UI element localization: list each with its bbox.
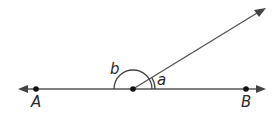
ray (133, 10, 262, 89)
arrow-left-icon (18, 85, 28, 93)
point-a-dot (33, 86, 39, 92)
label-b-point: B (241, 93, 251, 111)
point-o-dot (130, 86, 136, 92)
angle-b-arc (114, 70, 152, 89)
label-angle-a: a (157, 71, 166, 89)
angle-diagram: A B b a (0, 0, 277, 118)
label-a-point: A (30, 93, 41, 111)
label-angle-b: b (110, 60, 120, 78)
point-b-dot (243, 86, 249, 92)
arrow-right-icon (256, 85, 266, 93)
ray-arrow-icon (254, 8, 266, 17)
